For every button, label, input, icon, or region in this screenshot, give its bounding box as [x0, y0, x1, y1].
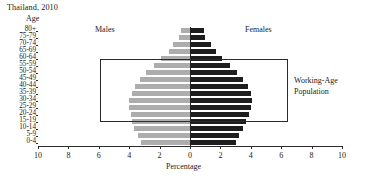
bar-female [190, 49, 216, 55]
pyramid-row [38, 62, 342, 69]
pyramid-row [38, 41, 342, 48]
x-axis-tick [68, 146, 69, 149]
bar-male [179, 35, 190, 41]
bar-male [138, 133, 190, 139]
x-axis-tick-label: 10 [28, 151, 48, 160]
x-axis-tick [342, 146, 343, 149]
bar-male [129, 105, 190, 111]
age-axis-caption: Age [26, 14, 39, 23]
x-axis-tick-label: 6 [89, 151, 109, 160]
x-axis-tick [220, 146, 221, 149]
x-axis-caption: Percentage [0, 162, 367, 171]
pyramid-row [38, 34, 342, 41]
bar-female [190, 77, 243, 83]
pyramid-row [38, 111, 342, 118]
bar-male [135, 84, 190, 90]
age-tick-label-column: 80+75-7970-7465-6960-6455-5950-5445-4940… [0, 27, 36, 146]
bar-male [154, 63, 190, 69]
x-axis-tick-label: 2 [210, 151, 230, 160]
age-tick-label: 0-4 [0, 138, 36, 145]
pyramid-row [38, 125, 342, 132]
bar-male [132, 91, 190, 97]
x-axis-tick-label: 10 [332, 151, 352, 160]
bar-female [190, 133, 239, 139]
bar-male [173, 42, 190, 48]
x-axis-tick-label: 4 [119, 151, 139, 160]
pyramid-row [38, 132, 342, 139]
bar-female [190, 63, 230, 69]
bar-male [146, 70, 190, 76]
bar-male [134, 126, 190, 132]
bar-female [190, 56, 222, 62]
bar-female [190, 112, 249, 118]
x-axis-tick-label: 0 [180, 151, 200, 160]
bar-female [190, 140, 236, 146]
bar-female [190, 70, 237, 76]
bar-female [190, 98, 252, 104]
x-axis-tick [312, 146, 313, 149]
pyramid-row [38, 97, 342, 104]
bar-female [190, 84, 248, 90]
x-axis-tick-label: 6 [271, 151, 291, 160]
bar-female [190, 42, 211, 48]
x-axis-tick-label: 2 [150, 151, 170, 160]
x-axis-tick [251, 146, 252, 149]
x-axis-tick [281, 146, 282, 149]
bar-male [131, 112, 190, 118]
bar-male [129, 98, 190, 104]
x-axis-tick [38, 146, 39, 149]
chart-title: Thailand, 2010 [7, 3, 58, 12]
bar-male [141, 140, 190, 146]
pyramid-row [38, 55, 342, 62]
x-axis-tick [190, 146, 191, 149]
bar-male [132, 119, 190, 125]
population-pyramid-chart: Thailand, 2010 Age Males Females 80+75-7… [0, 0, 367, 183]
x-axis-tick-label: 8 [302, 151, 322, 160]
bar-male [140, 77, 190, 83]
pyramid-row [38, 104, 342, 111]
bar-female [190, 105, 251, 111]
working-age-annotation-line1: Working-Age [294, 76, 338, 87]
x-axis-tick [160, 146, 161, 149]
bar-male [161, 56, 190, 62]
x-axis-tick [99, 146, 100, 149]
pyramid-row [38, 27, 342, 34]
bar-female [190, 91, 251, 97]
bar-male [181, 28, 190, 34]
bar-female [190, 126, 243, 132]
x-axis-tick-label: 8 [58, 151, 78, 160]
x-axis-tick [129, 146, 130, 149]
bar-male [169, 49, 190, 55]
pyramid-row [38, 69, 342, 76]
working-age-annotation: Working-Age Population [294, 76, 338, 97]
bar-female [190, 119, 246, 125]
pyramid-row [38, 139, 342, 146]
pyramid-row [38, 48, 342, 55]
pyramid-row [38, 118, 342, 125]
bar-female [190, 28, 204, 34]
working-age-annotation-line2: Population [294, 87, 338, 98]
x-axis-tick-label: 4 [241, 151, 261, 160]
bar-female [190, 35, 205, 41]
